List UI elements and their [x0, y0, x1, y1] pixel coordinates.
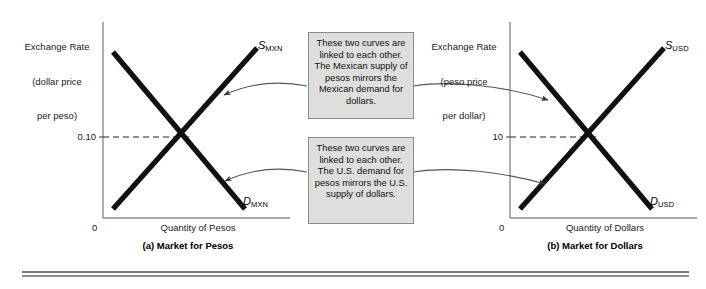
callout-demand-link: These two curves are linked to each othe… — [308, 137, 414, 224]
panel-a-origin-label: 0 — [92, 222, 97, 234]
panel-b-demand-curve-label: DUSD — [650, 196, 674, 209]
exchange-rate-figure: Exchange Rate (dollar price per peso) 0.… — [0, 0, 706, 289]
panel-b-demand-subscript: USD — [658, 200, 674, 209]
panel-a-y-axis-title-line2: (dollar price — [14, 76, 100, 88]
panel-b-y-tick-label: 10 — [463, 131, 503, 143]
panel-b-y-axis-title-line3: per dollar) — [421, 110, 507, 122]
panel-a-y-tick-label: 0.10 — [56, 131, 96, 143]
panel-a-y-axis-title: Exchange Rate (dollar price per peso) — [14, 18, 100, 145]
callout-supply-link: These two curves are linked to each othe… — [308, 32, 414, 119]
panel-a-caption: (a) Market for Pesos — [88, 240, 288, 252]
panel-b-y-axis-title-line1: Exchange Rate — [421, 41, 507, 53]
panel-b-y-axis-title: Exchange Rate (peso price per dollar) — [421, 18, 507, 145]
callout-supply-arrow-left — [224, 83, 307, 95]
panel-a-supply-curve — [113, 48, 257, 209]
panel-b-supply-subscript: USD — [672, 44, 688, 53]
panel-a-y-axis-title-line1: Exchange Rate — [14, 41, 100, 53]
panel-b-origin-label: 0 — [499, 222, 504, 234]
panel-b-caption: (b) Market for Dollars — [495, 240, 695, 252]
callout-demand-arrow-left — [225, 169, 307, 181]
panel-b-supply-curve — [520, 48, 664, 209]
callout-demand-arrow-right — [414, 170, 545, 184]
panel-a-demand-curve-label: DMXN — [243, 196, 268, 209]
panel-a-supply-curve-label: SMXN — [258, 40, 283, 53]
panel-a-x-axis-label: Quantity of Pesos — [110, 222, 286, 234]
panel-a-demand-letter: D — [243, 195, 251, 207]
panel-b-x-axis-label: Quantity of Dollars — [517, 222, 693, 234]
panel-b-demand-letter: D — [650, 195, 658, 207]
panel-b-y-axis-title-line2: (peso price — [421, 76, 507, 88]
panel-b-supply-curve-label: SUSD — [665, 40, 689, 53]
panel-a-supply-subscript: MXN — [265, 44, 282, 53]
panel-a-demand-subscript: MXN — [251, 200, 268, 209]
panel-a-y-axis-title-line3: per peso) — [14, 110, 100, 122]
